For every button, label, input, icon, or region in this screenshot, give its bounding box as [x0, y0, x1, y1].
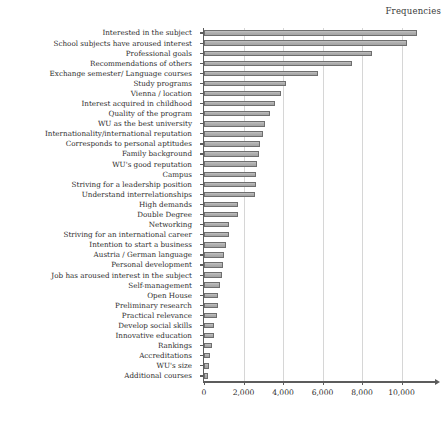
gridline — [362, 28, 363, 381]
category-tick — [200, 133, 204, 134]
category-tick — [200, 254, 204, 255]
category-tick — [200, 295, 204, 296]
bar — [204, 151, 259, 156]
category-tick — [200, 123, 204, 124]
category-label: Austria / German language — [0, 251, 195, 258]
category-label: WU as the best university — [0, 120, 195, 127]
category-tick — [200, 32, 204, 33]
bar — [204, 343, 212, 348]
bar — [204, 303, 218, 308]
bar — [204, 30, 417, 35]
category-label: Striving for a leadership position — [0, 181, 195, 188]
bar — [204, 252, 224, 257]
bar — [204, 323, 214, 328]
value-axis-label: 4,000 — [272, 388, 294, 397]
plot-area — [204, 28, 437, 381]
category-label: Understand interrelationships — [0, 191, 195, 198]
bar — [204, 333, 214, 338]
gridline — [402, 28, 403, 381]
category-tick — [200, 73, 204, 74]
chart-series-title: Frequencies — [386, 6, 441, 16]
category-tick — [200, 315, 204, 316]
category-tick — [200, 194, 204, 195]
category-label: Open House — [0, 292, 195, 299]
category-label: Corresponds to personal aptitudes — [0, 140, 195, 147]
category-tick — [200, 305, 204, 306]
category-label: High demands — [0, 201, 195, 208]
value-axis-label: 8,000 — [351, 388, 373, 397]
category-tick — [200, 143, 204, 144]
category-tick — [200, 345, 204, 346]
category-label: Self-management — [0, 282, 195, 289]
bar — [204, 212, 238, 217]
bar — [204, 141, 260, 146]
category-label: Recommendations of others — [0, 60, 195, 67]
value-axis-label: 6,000 — [312, 388, 334, 397]
category-tick — [200, 83, 204, 84]
category-label: Develop social skills — [0, 322, 195, 329]
category-tick — [200, 365, 204, 366]
bar — [204, 262, 223, 267]
category-label: Networking — [0, 221, 195, 228]
bar — [204, 182, 256, 187]
category-tick — [200, 113, 204, 114]
bar — [204, 373, 208, 378]
category-label: School subjects have aroused interest — [0, 40, 195, 47]
category-tick — [200, 43, 204, 44]
category-label: Study programs — [0, 80, 195, 87]
category-tick — [200, 244, 204, 245]
category-label: Additional courses — [0, 372, 195, 379]
category-tick — [200, 275, 204, 276]
category-label: WU's size — [0, 362, 195, 369]
category-label: Practical relevance — [0, 312, 195, 319]
bar — [204, 222, 229, 227]
category-tick — [200, 285, 204, 286]
category-tick — [200, 375, 204, 376]
bar — [204, 172, 256, 177]
bar — [204, 61, 352, 66]
category-label: Vienna / location — [0, 90, 195, 97]
value-axis-tick — [244, 381, 245, 385]
bar — [204, 111, 270, 116]
gridline — [323, 28, 324, 381]
category-label: Exchange semester/ Language courses — [0, 70, 195, 77]
category-tick — [200, 335, 204, 336]
bar — [204, 353, 210, 358]
category-tick — [200, 53, 204, 54]
category-label: Preliminary research — [0, 302, 195, 309]
value-axis-label: 2,000 — [233, 388, 255, 397]
value-axis-tick — [323, 381, 324, 385]
category-tick — [200, 214, 204, 215]
category-tick — [200, 224, 204, 225]
category-label: Quality of the program — [0, 110, 195, 117]
plot-wrapper: Interested in the subjectSchool subjects… — [0, 28, 447, 381]
bar — [204, 131, 263, 136]
category-label-column: Interested in the subjectSchool subjects… — [0, 28, 195, 381]
category-tick — [200, 63, 204, 64]
value-axis-tick — [402, 381, 403, 385]
value-axis-tick — [283, 381, 284, 385]
bar — [204, 313, 217, 318]
bar — [204, 101, 275, 106]
category-tick — [200, 234, 204, 235]
bar — [204, 161, 257, 166]
bar — [204, 40, 407, 45]
category-tick — [200, 93, 204, 94]
category-label: WU's good reputation — [0, 161, 195, 168]
value-axis-tick — [204, 381, 205, 385]
category-label: Job has aroused interest in the subject — [0, 272, 195, 279]
bar — [204, 91, 281, 96]
category-label: Striving for an international career — [0, 231, 195, 238]
bar — [204, 242, 226, 247]
bar — [204, 232, 229, 237]
category-label: Interested in the subject — [0, 29, 195, 36]
category-label: Family background — [0, 150, 195, 157]
value-axis-label: 10,000 — [388, 388, 415, 397]
category-label: Internationality/international reputatio… — [0, 130, 195, 137]
category-label: Accreditations — [0, 352, 195, 359]
category-label: Personal development — [0, 261, 195, 268]
category-tick — [200, 264, 204, 265]
category-label: Professional goals — [0, 50, 195, 57]
category-tick — [200, 153, 204, 154]
category-tick — [200, 184, 204, 185]
